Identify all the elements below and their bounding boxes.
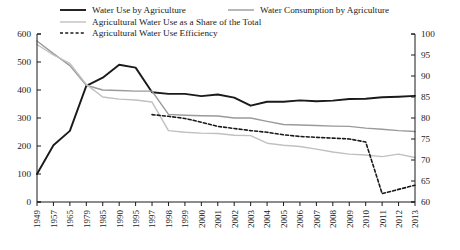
- chart-figure: Water Use by AgricultureWater Consumptio…: [0, 0, 460, 250]
- x-tick-label-2010: 2010: [361, 210, 371, 229]
- x-tick-label-2001: 2001: [213, 210, 223, 228]
- right-tick-label-70: 70: [421, 155, 431, 165]
- right-tick-label-80: 80: [421, 113, 431, 123]
- left-tick-label-500: 500: [17, 57, 31, 67]
- x-tick-label-2000: 2000: [197, 210, 207, 229]
- legend-label-0: Water Use by Agriculture: [92, 5, 186, 15]
- x-tick-label-1949: 1949: [32, 210, 42, 229]
- x-tick-label-2008: 2008: [328, 210, 338, 229]
- right-tick-label-60: 60: [421, 197, 431, 207]
- legend-label-1: Water Consumption by Agriculture: [260, 5, 389, 15]
- series-line-3: [152, 115, 415, 194]
- right-tick-label-100: 100: [421, 29, 435, 39]
- x-tick-label-2002: 2002: [230, 210, 240, 228]
- x-tick-label-1990: 1990: [115, 210, 125, 229]
- x-tick-label-1957: 1957: [49, 210, 59, 229]
- right-axis: 6065707580859095100: [411, 29, 435, 207]
- chart-svg: Water Use by AgricultureWater Consumptio…: [0, 0, 460, 250]
- right-tick-label-90: 90: [421, 71, 431, 81]
- x-tick-label-2012: 2012: [394, 210, 404, 228]
- left-tick-label-0: 0: [26, 197, 31, 207]
- left-tick-label-200: 200: [17, 141, 31, 151]
- series-line-0: [37, 65, 415, 174]
- x-tick-label-2003: 2003: [246, 210, 256, 229]
- legend-label-3: Agricultural Water Use Efficiency: [92, 28, 218, 38]
- right-tick-label-85: 85: [421, 92, 431, 102]
- x-tick-label-2013: 2013: [410, 210, 420, 229]
- legend: Water Use by AgricultureWater Consumptio…: [60, 5, 389, 38]
- x-tick-label-2011: 2011: [378, 210, 388, 228]
- plot-area: [37, 41, 415, 194]
- x-tick-label-2005: 2005: [279, 210, 289, 229]
- x-tick-label-1998: 1998: [164, 210, 174, 229]
- left-tick-label-400: 400: [17, 85, 31, 95]
- x-tick-label-2009: 2009: [345, 210, 355, 229]
- right-tick-label-75: 75: [421, 134, 431, 144]
- left-tick-label-100: 100: [17, 169, 31, 179]
- x-tick-label-2007: 2007: [312, 210, 322, 229]
- right-tick-label-95: 95: [421, 50, 431, 60]
- x-tick-label-1985: 1985: [98, 210, 108, 229]
- legend-label-2: Agricultural Water Use as a Share of the…: [92, 17, 262, 27]
- x-axis: 1949195719651979198519901995199719981999…: [32, 202, 420, 228]
- x-tick-label-2006: 2006: [295, 210, 305, 229]
- left-axis: 0100200300400500600: [17, 29, 41, 207]
- x-tick-label-1995: 1995: [131, 210, 141, 229]
- x-tick-label-1979: 1979: [82, 210, 92, 229]
- left-tick-label-600: 600: [17, 29, 31, 39]
- x-tick-label-2004: 2004: [262, 210, 272, 229]
- x-tick-label-1997: 1997: [147, 210, 157, 229]
- right-tick-label-65: 65: [421, 176, 431, 186]
- x-tick-label-1999: 1999: [180, 210, 190, 229]
- left-tick-label-300: 300: [17, 113, 31, 123]
- x-tick-label-1965: 1965: [65, 210, 75, 229]
- series-line-1: [37, 41, 415, 131]
